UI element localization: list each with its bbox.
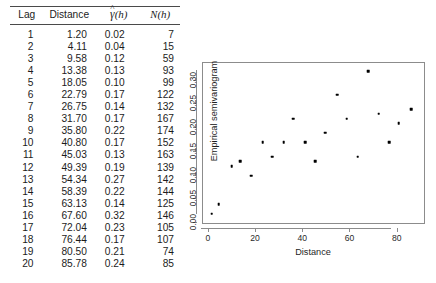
cell-n: 167: [141, 113, 180, 125]
cell-lag: 7: [10, 101, 42, 113]
x-axis-title: Distance: [190, 247, 436, 257]
cell-lag: 9: [10, 125, 42, 137]
semivariogram-table: Lag Distance ^γ(h) N(h) 11.200.02724.110…: [10, 6, 180, 270]
cell-n: 174: [141, 125, 180, 137]
cell-distance: 67.60: [42, 210, 97, 222]
data-point: [282, 141, 285, 144]
cell-n: 93: [141, 64, 180, 76]
cell-distance: 22.79: [42, 89, 97, 101]
column-header-distance: Distance: [42, 7, 97, 25]
cell-lag: 8: [10, 113, 42, 125]
cell-lag: 19: [10, 246, 42, 258]
y-tick-label: 0.30: [188, 68, 198, 92]
cell-distance: 85.78: [42, 258, 97, 270]
data-point: [210, 212, 213, 215]
cell-lag: 3: [10, 52, 42, 64]
y-axis-title: Empirical semivariogram: [209, 51, 219, 171]
cell-distance: 1.20: [42, 24, 97, 40]
cell-lag: 15: [10, 197, 42, 209]
cell-lag: 17: [10, 222, 42, 234]
data-point: [410, 108, 413, 111]
cell-n: 163: [141, 149, 180, 161]
cell-distance: 35.80: [42, 125, 97, 137]
cell-distance: 49.39: [42, 161, 97, 173]
y-tick-label: 0.15: [188, 139, 198, 163]
cell-n: 15: [141, 40, 180, 52]
table-row: 1980.500.2174: [10, 246, 180, 258]
table-row: 1354.340.27142: [10, 173, 180, 185]
cell-distance: 26.75: [42, 101, 97, 113]
cell-gamma: 0.14: [97, 101, 141, 113]
cell-lag: 16: [10, 210, 42, 222]
cell-distance: 54.34: [42, 173, 97, 185]
cell-distance: 31.70: [42, 113, 97, 125]
cell-gamma: 0.12: [97, 52, 141, 64]
y-tick-label: 0.25: [188, 91, 198, 115]
table-row: 726.750.14132: [10, 101, 180, 113]
column-header-n: N(h): [141, 7, 180, 25]
data-point: [230, 165, 233, 168]
cell-n: 152: [141, 137, 180, 149]
x-tick-label: 20: [250, 233, 260, 243]
table-row: 39.580.1259: [10, 52, 180, 64]
gamma-argument: (h): [115, 8, 128, 20]
cell-gamma: 0.22: [97, 185, 141, 197]
table-head: Lag Distance ^γ(h) N(h): [10, 7, 180, 25]
y-tick-label: 0.05: [188, 186, 198, 210]
cell-n: 99: [141, 77, 180, 89]
y-tick-label: 0.00: [188, 210, 198, 234]
cell-lag: 13: [10, 173, 42, 185]
table-row: 1145.030.13163: [10, 149, 180, 161]
cell-lag: 2: [10, 40, 42, 52]
cell-lag: 1: [10, 24, 42, 40]
cell-gamma: 0.13: [97, 64, 141, 76]
data-point: [314, 160, 317, 163]
data-point: [367, 70, 370, 73]
cell-n: 59: [141, 52, 180, 64]
cell-gamma: 0.27: [97, 173, 141, 185]
cell-gamma: 0.17: [97, 113, 141, 125]
data-point: [292, 117, 295, 120]
table-row: 1772.040.23105: [10, 222, 180, 234]
table-row: 1563.130.14125: [10, 197, 180, 209]
cell-distance: 9.58: [42, 52, 97, 64]
table-row: 413.380.1393: [10, 64, 180, 76]
x-tick-mark: [349, 228, 350, 232]
data-point: [398, 122, 401, 125]
cell-gamma: 0.19: [97, 161, 141, 173]
cell-gamma: 0.13: [97, 149, 141, 161]
cell-n: 122: [141, 89, 180, 101]
cell-lag: 14: [10, 185, 42, 197]
table-body: 11.200.02724.110.041539.580.1259413.380.…: [10, 24, 180, 270]
cell-gamma: 0.21: [97, 246, 141, 258]
cell-gamma: 0.14: [97, 197, 141, 209]
cell-gamma: 0.04: [97, 40, 141, 52]
table-row: 1667.600.32146: [10, 210, 180, 222]
table-row: 24.110.0415: [10, 40, 180, 52]
x-tick-label: 60: [345, 233, 355, 243]
data-point: [357, 155, 360, 158]
cell-n: 74: [141, 246, 180, 258]
cell-n: 125: [141, 197, 180, 209]
table-row: 831.700.17167: [10, 113, 180, 125]
table-row: 1876.440.17107: [10, 234, 180, 246]
table-row: 1040.800.17152: [10, 137, 180, 149]
n-argument: (h): [157, 8, 170, 20]
cell-distance: 45.03: [42, 149, 97, 161]
data-point: [239, 160, 242, 163]
plot-frame: [202, 62, 425, 224]
cell-n: 146: [141, 210, 180, 222]
cell-distance: 58.39: [42, 185, 97, 197]
data-point: [388, 141, 391, 144]
cell-lag: 10: [10, 137, 42, 149]
cell-n: 105: [141, 222, 180, 234]
hat-accent-icon: ^: [110, 4, 114, 13]
cell-n: 7: [141, 24, 180, 40]
data-point: [336, 94, 339, 97]
cell-distance: 13.38: [42, 64, 97, 76]
cell-gamma: 0.17: [97, 137, 141, 149]
cell-lag: 18: [10, 234, 42, 246]
data-point: [304, 141, 307, 144]
data-point: [217, 203, 220, 206]
x-tick-mark: [397, 228, 398, 232]
